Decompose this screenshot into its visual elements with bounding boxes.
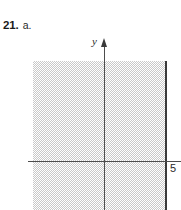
y-axis-line <box>104 45 105 210</box>
shaded-solution-region <box>33 61 167 210</box>
boundary-line-x-equals-5 <box>165 61 167 210</box>
figure-root: 21.a. y 5 <box>0 0 181 210</box>
y-axis-arrowhead-icon <box>101 38 107 47</box>
coordinate-plot: y 5 <box>0 0 181 210</box>
y-axis-label: y <box>92 36 97 47</box>
x-axis-tick-label-5: 5 <box>170 163 176 174</box>
